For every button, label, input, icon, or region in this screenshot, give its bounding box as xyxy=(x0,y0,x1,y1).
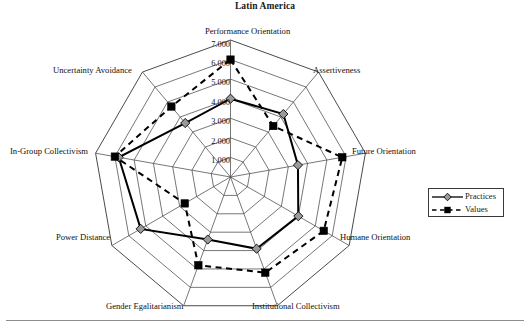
axis-label-gender-egalitarianism: Gender Egalitarianism xyxy=(106,302,184,311)
axis-label-institutional-collectivism: Institutional Collectivism xyxy=(252,302,340,311)
legend-label-practices: Practices xyxy=(465,191,496,201)
radar-plot-area xyxy=(0,0,530,334)
legend-item-practices: Practices xyxy=(429,191,505,204)
tick-label-3: 3.000 xyxy=(196,118,230,126)
legend-swatch-practices xyxy=(432,191,463,203)
axis-label-power-distance: Power Distance xyxy=(56,233,110,242)
radar-chart-figure: Latin America Performance Orientation As… xyxy=(0,0,530,334)
chart-title: Latin America xyxy=(0,1,530,11)
footer-divider xyxy=(6,320,524,321)
tick-label-7: 7.000 xyxy=(196,41,230,49)
tick-label-6: 6.000 xyxy=(196,60,230,68)
legend-item-values: Values xyxy=(429,204,505,217)
tick-label-2: 2.000 xyxy=(196,138,230,146)
axis-label-performance-orientation: Performance Orientation xyxy=(205,27,290,36)
radar-series xyxy=(111,56,346,276)
tick-label-4: 4.000 xyxy=(196,99,230,107)
axis-label-assertiveness: Assertiveness xyxy=(313,66,360,75)
axis-label-uncertainty-avoidance: Uncertainty Avoidance xyxy=(53,66,132,75)
chart-legend: Practices Values xyxy=(428,188,504,217)
axis-label-humane-orientation: Humane Orientation xyxy=(340,233,410,242)
axis-label-in-group-collectivism: In-Group Collectivism xyxy=(10,147,88,156)
legend-swatch-values xyxy=(432,204,463,216)
tick-label-1: 1.000 xyxy=(196,157,230,165)
legend-label-values: Values xyxy=(465,204,488,214)
tick-label-5: 5.000 xyxy=(196,79,230,87)
axis-label-future-orientation: Future Orientation xyxy=(352,147,416,156)
